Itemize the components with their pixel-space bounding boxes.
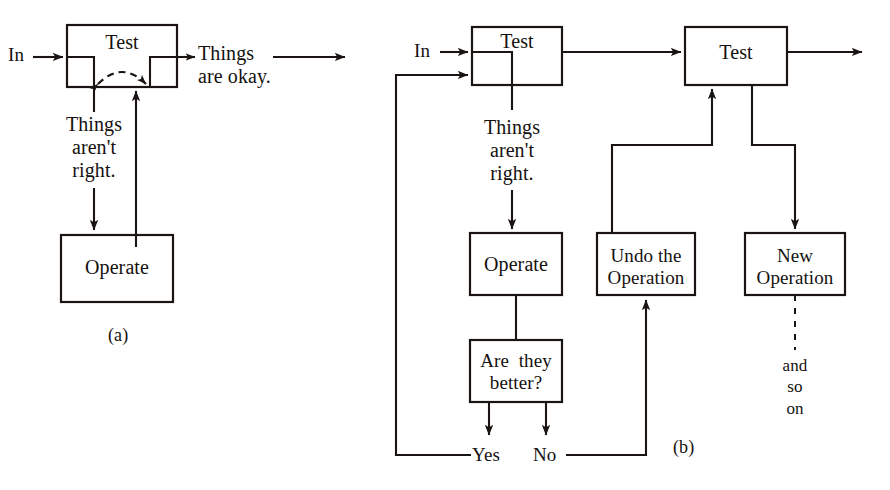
operate-box-b-label: Operate [470, 253, 562, 276]
in-label-b: In [414, 40, 430, 62]
in-label-a: In [8, 44, 24, 66]
and-so-on-label: and so on [755, 355, 835, 419]
test-box-a-label: Test [67, 31, 177, 54]
test-box-b2-label: Test [685, 41, 787, 64]
things-arent-right-label-a: Things aren't right. [44, 113, 144, 183]
no-to-undo-loop-b [566, 300, 646, 455]
things-are-okay-label: Things are okay. [198, 42, 271, 88]
are-they-better-box-label: Are they better? [468, 350, 564, 394]
panel-a-caption: (a) [108, 325, 128, 346]
new-operation-box-label: New Operation [745, 245, 845, 289]
yes-label: Yes [472, 444, 500, 466]
panel-b-caption: (b) [673, 437, 694, 458]
test2-to-new-operation-arrow [752, 85, 795, 229]
figure-root: In Test Things are okay. Things aren't r… [0, 0, 890, 490]
yes-feedback-loop-b [396, 75, 471, 455]
undo-to-test2-arrow [612, 89, 712, 233]
no-label: No [533, 444, 556, 466]
things-arent-right-label-b: Things aren't right. [462, 116, 562, 186]
test-box-b1-label: Test [472, 30, 562, 53]
undo-box-label: Undo the Operation [597, 245, 695, 289]
operate-box-a-label: Operate [61, 256, 173, 279]
